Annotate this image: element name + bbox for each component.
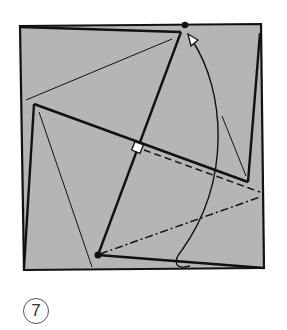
- origami-diagram: [0, 0, 287, 330]
- step-number-badge: 7: [23, 298, 49, 324]
- reference-dot-bottom: [95, 252, 102, 259]
- step-number: 7: [31, 301, 40, 321]
- reference-dot-top: [182, 22, 189, 29]
